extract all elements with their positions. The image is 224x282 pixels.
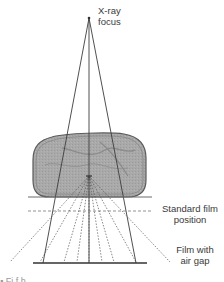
standard-film-label: Standard film position <box>156 203 224 225</box>
scatter-diagram <box>0 0 224 282</box>
clipped-caption: ▪ Fi f h <box>0 276 224 282</box>
focus-point <box>88 17 91 20</box>
air-gap-film-label: Film with air gap <box>172 244 218 266</box>
diagram-canvas: X-ray focus Standard film position Film … <box>0 0 224 282</box>
body-cross-section <box>33 133 146 197</box>
focus-label: X-ray focus <box>98 5 121 27</box>
